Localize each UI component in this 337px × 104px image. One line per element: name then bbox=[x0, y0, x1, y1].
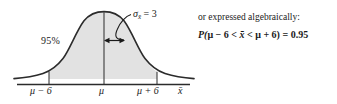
probability-value: 0.95 bbox=[291, 29, 309, 40]
probability-op-right: < bbox=[247, 29, 253, 40]
probability-equals: = bbox=[282, 29, 288, 40]
sigma-value: 3 bbox=[152, 8, 157, 19]
axis-tick-label-lower: μ − 6 bbox=[30, 86, 52, 96]
probability-op-left: < bbox=[231, 29, 237, 40]
algebraic-intro-text: or expressed algebraically: bbox=[198, 13, 300, 23]
axis-tick-label-upper: μ + 6 bbox=[137, 86, 159, 96]
probability-statement: P(μ − 6 < x̄ < μ + 6) = 0.95 bbox=[198, 30, 308, 40]
probability-lower-bound: μ − 6 bbox=[207, 29, 228, 40]
axis-variable-label: x̄ bbox=[178, 86, 182, 96]
axis-tick-label-mean: μ bbox=[99, 86, 104, 96]
standard-deviation-label: σx̄ = 3 bbox=[133, 9, 157, 21]
confidence-percent-label: 95% bbox=[41, 36, 60, 46]
probability-close-paren: ) bbox=[277, 29, 280, 40]
shaded-confidence-region bbox=[49, 12, 157, 79]
probability-upper-bound: μ + 6 bbox=[255, 29, 276, 40]
probability-variable: x̄ bbox=[240, 29, 245, 40]
